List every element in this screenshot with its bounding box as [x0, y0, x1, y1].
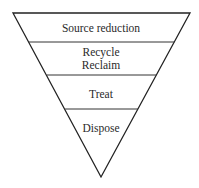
- level-source-reduction: Source reduction: [62, 22, 140, 34]
- level-treat: Treat: [89, 88, 114, 100]
- level-recycle: Recycle: [82, 46, 119, 59]
- level-dispose: Dispose: [82, 122, 119, 135]
- level-reclaim: Reclaim: [82, 59, 120, 71]
- inverted-pyramid-diagram: Source reduction Recycle Reclaim Treat D…: [0, 0, 199, 188]
